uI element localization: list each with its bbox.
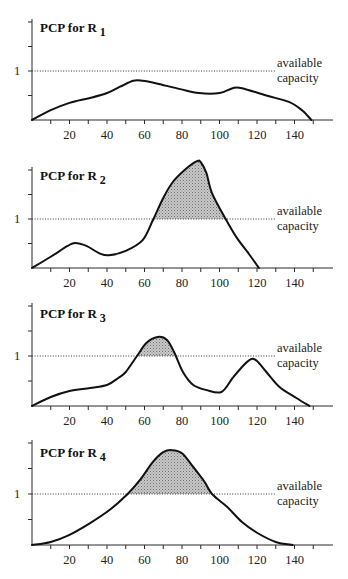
capacity-label-line1: available	[277, 56, 323, 70]
x-tick-label: 60	[138, 276, 151, 290]
x-tick-label: 140	[285, 553, 304, 567]
x-tick-label: 40	[101, 414, 114, 428]
x-tick-label: 120	[248, 553, 267, 567]
panel-title-main: PCP for R	[40, 445, 97, 460]
panel-title: PCP for R2	[40, 168, 106, 187]
panel-title: PCP for R1	[40, 20, 106, 39]
panel-pcp-r2: PCP for R2 1 available capacity 20406080…	[14, 160, 333, 290]
panel-title-subscript: 4	[100, 450, 106, 464]
x-tick-label: 40	[101, 276, 114, 290]
pcp-curve	[32, 80, 311, 120]
x-tick-label: 100	[210, 553, 229, 567]
y-tick-label-capacity: 1	[14, 487, 20, 501]
panel-title: PCP for R3	[40, 306, 106, 325]
x-tick-label: 80	[176, 414, 189, 428]
capacity-label-line2: capacity	[277, 356, 319, 370]
panel-title-subscript: 3	[100, 311, 106, 325]
panel-title-subscript: 2	[100, 173, 106, 187]
x-tick-label: 140	[285, 276, 304, 290]
panel-pcp-r1: PCP for R1 1 available capacity 20406080…	[14, 19, 333, 142]
x-tick-label: 120	[248, 276, 267, 290]
pcp-figure: PCP for R1 1 available capacity 20406080…	[0, 0, 348, 579]
x-tick-label: 120	[248, 414, 267, 428]
capacity-label-line2: capacity	[277, 219, 319, 233]
x-tick-label: 20	[63, 276, 76, 290]
panel-title-main: PCP for R	[40, 20, 97, 35]
panel-pcp-r4: PCP for R4 1 available capacity 20406080…	[14, 440, 333, 567]
x-tick-label: 60	[138, 414, 151, 428]
x-tick-label: 140	[285, 128, 304, 142]
x-tick-label: 20	[63, 553, 76, 567]
y-tick-label-capacity: 1	[14, 64, 20, 78]
panel-title-subscript: 1	[100, 25, 106, 39]
capacity-label-line1: available	[277, 341, 323, 355]
x-tick-label: 100	[210, 276, 229, 290]
x-tick-label: 80	[176, 276, 189, 290]
x-tick-label: 80	[176, 128, 189, 142]
capacity-label-line1: available	[277, 479, 323, 493]
x-tick-label: 40	[101, 553, 114, 567]
x-tick-label: 40	[101, 128, 114, 142]
capacity-label-line1: available	[277, 204, 323, 218]
x-tick-label: 20	[63, 128, 76, 142]
x-tick-label: 60	[138, 128, 151, 142]
y-tick-label-capacity: 1	[14, 349, 20, 363]
panel-title-main: PCP for R	[40, 168, 97, 183]
panel-title-main: PCP for R	[40, 306, 97, 321]
pcp-curve	[32, 337, 310, 406]
x-tick-label: 100	[210, 414, 229, 428]
capacity-label-line2: capacity	[277, 71, 319, 85]
x-tick-label: 20	[63, 414, 76, 428]
panel-pcp-r3: PCP for R3 1 available capacity 20406080…	[14, 303, 333, 428]
x-tick-label: 140	[285, 414, 304, 428]
x-tick-label: 120	[248, 128, 267, 142]
x-tick-label: 80	[176, 553, 189, 567]
panel-title: PCP for R4	[40, 445, 106, 464]
x-tick-label: 60	[138, 553, 151, 567]
x-tick-label: 100	[210, 128, 229, 142]
y-tick-label-capacity: 1	[14, 212, 20, 226]
capacity-label-line2: capacity	[277, 494, 319, 508]
